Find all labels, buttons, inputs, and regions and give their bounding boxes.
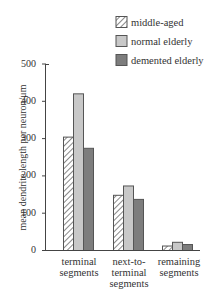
bar-demented-elderly-2 xyxy=(183,245,193,251)
legend-label: demented elderly xyxy=(131,55,204,66)
legend-label: middle-aged xyxy=(131,17,183,28)
bar-normal-elderly-2 xyxy=(173,242,183,250)
legend-item-demented-elderly: demented elderly xyxy=(131,53,204,67)
bar-middle-aged-0 xyxy=(64,137,74,250)
bar-demented-elderly-0 xyxy=(84,148,94,250)
bar-middle-aged-1 xyxy=(114,195,124,250)
bars-group xyxy=(64,94,193,251)
x-category-remaining: remaining segments xyxy=(153,256,205,278)
x-category-line: segments xyxy=(153,267,205,278)
bar-middle-aged-2 xyxy=(163,246,173,250)
x-category-line: remaining xyxy=(153,256,205,267)
bar-demented-elderly-1 xyxy=(134,199,144,250)
x-category-terminal: terminal segments xyxy=(55,256,103,278)
y-axis-label: mean dendrite length per neuron/μm xyxy=(17,58,28,258)
legend-swatch-demented-elderly xyxy=(116,55,127,66)
x-category-line: segments xyxy=(104,278,154,289)
legend-item-middle-aged: middle-aged xyxy=(131,15,183,29)
bar-normal-elderly-0 xyxy=(74,94,84,251)
x-category-line: terminal xyxy=(104,267,154,278)
legend-swatch-middle-aged xyxy=(116,17,127,28)
x-category-next-to-terminal: next-to- terminal segments xyxy=(104,256,154,289)
x-category-line: segments xyxy=(55,267,103,278)
legend-label: normal elderly xyxy=(131,36,193,47)
bar-normal-elderly-1 xyxy=(124,186,134,251)
legend-swatch-normal-elderly xyxy=(116,36,127,47)
x-category-line: next-to- xyxy=(104,256,154,267)
x-category-line: terminal xyxy=(55,256,103,267)
legend-item-normal-elderly: normal elderly xyxy=(131,34,193,48)
